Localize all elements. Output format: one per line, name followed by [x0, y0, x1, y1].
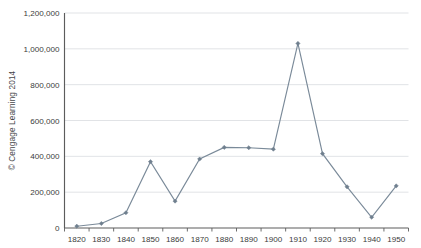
y-axis-tick-label: 0 — [55, 224, 60, 233]
x-axis-tick-labels: 1820183018401850186018701880189019001910… — [68, 235, 406, 244]
data-point-marker — [247, 146, 251, 150]
x-axis-tick-label: 1860 — [166, 235, 185, 244]
y-axis-tick-labels: 0200,000400,000600,000800,0001,000,0001,… — [23, 9, 60, 233]
y-axis-tick-label: 200,000 — [30, 188, 60, 197]
data-point-markers — [75, 41, 399, 228]
data-point-marker — [124, 211, 128, 215]
data-point-marker — [99, 221, 103, 225]
x-axis-tick-label: 1930 — [338, 235, 357, 244]
x-axis-tick-label: 1820 — [68, 235, 87, 244]
y-axis-tick-label: 800,000 — [30, 81, 60, 90]
y-axis-tick-label: 400,000 — [30, 152, 60, 161]
x-axis-tick-label: 1840 — [117, 235, 136, 244]
x-axis-tick-label: 1900 — [264, 235, 283, 244]
chart-figure: © Cengage Learning 2014 0200,000400,0006… — [0, 0, 421, 248]
data-point-marker — [271, 147, 275, 151]
x-axis-tick-label: 1880 — [215, 235, 234, 244]
x-axis-tick-label: 1910 — [289, 235, 308, 244]
x-axis-tick-label: 1950 — [387, 235, 406, 244]
line-chart: 0200,000400,000600,000800,0001,000,0001,… — [0, 0, 421, 248]
gridlines — [65, 13, 409, 192]
y-axis-tick-label: 1,000,000 — [23, 45, 60, 54]
y-axis-tick-label: 600,000 — [30, 117, 60, 126]
data-series-line — [77, 43, 396, 226]
x-axis-tick-label: 1890 — [240, 235, 259, 244]
data-point-marker — [296, 41, 300, 45]
x-axis-tick-label: 1850 — [141, 235, 160, 244]
x-axis-tick-label: 1940 — [363, 235, 382, 244]
x-axis-tick-label: 1920 — [313, 235, 332, 244]
y-axis-tick-label: 1,200,000 — [23, 9, 60, 18]
x-axis-tick-label: 1830 — [92, 235, 111, 244]
data-point-marker — [222, 145, 226, 149]
x-axis-tick-label: 1870 — [191, 235, 210, 244]
